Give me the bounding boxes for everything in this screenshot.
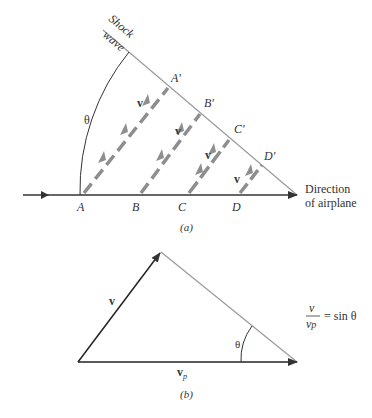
vector-v	[78, 253, 160, 362]
v-label-a4: v	[234, 172, 240, 186]
vp-label: vp	[177, 365, 187, 381]
v-label-b: v	[109, 294, 115, 308]
point-c-prime: C'	[234, 122, 245, 136]
figure-b: v θ vp (b) v vp = sin θ	[78, 252, 357, 401]
v-label-a1: v	[137, 96, 143, 110]
point-b-prime: B'	[204, 96, 214, 110]
theta-label-a: θ	[84, 113, 90, 127]
svg-text:= sin θ: = sin θ	[324, 309, 357, 323]
point-b: B	[132, 200, 140, 214]
point-a-prime: A'	[170, 71, 181, 85]
figure-a: Shock wave θ v v v v A' B' C' D' A B C D…	[23, 12, 357, 234]
path-midarrow-icon	[41, 191, 49, 199]
direction-label-2: of airplane	[305, 196, 357, 210]
svg-text:vp: vp	[306, 317, 316, 331]
diagram-canvas: Shock wave θ v v v v A' B' C' D' A B C D…	[0, 0, 372, 418]
theta-arc-b	[241, 326, 252, 362]
caption-a: (a)	[180, 221, 193, 234]
caption-b: (b)	[180, 388, 193, 401]
theta-label-b: θ	[235, 338, 240, 350]
equation-sin-theta: v vp = sin θ	[306, 301, 357, 331]
direction-label-1: Direction	[305, 182, 350, 196]
point-d: D	[231, 200, 241, 214]
v-label-a3: v	[205, 148, 211, 162]
svg-text:v: v	[309, 301, 315, 315]
v-label-a2: v	[175, 124, 181, 138]
hypotenuse-line	[161, 252, 297, 362]
point-d-prime: D'	[263, 149, 276, 163]
point-c: C	[178, 200, 187, 214]
point-a: A	[76, 200, 85, 214]
